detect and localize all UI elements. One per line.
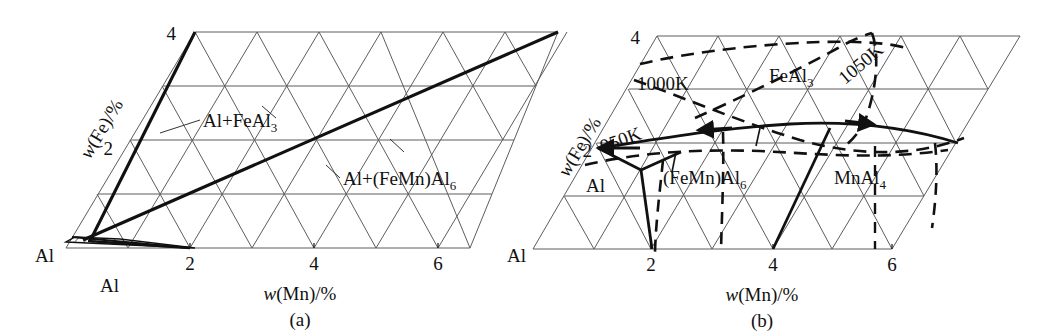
panel-b-corner-al: Al [507, 245, 526, 266]
panel-b-xlabel: w(Mn)/% [726, 284, 799, 306]
panel-b-xlabel-w: w [726, 284, 739, 305]
panel-b-iso-950-text: 950K [597, 122, 644, 156]
panel-b-iso-950-label: 950K [597, 122, 644, 156]
panel-b-xtick-4: 4 [768, 254, 778, 275]
panel-b-boundary-mnal4 [773, 128, 830, 249]
panel-b-iso-1000-label: 1000K [637, 73, 689, 94]
panel-b-label-al: Al [586, 175, 605, 196]
panel-b-xtick-6: 6 [887, 254, 897, 275]
panel-b-iso-1050-label: 1050K [834, 39, 887, 89]
panel-b-label-feal3-text: FeAl [769, 65, 807, 86]
figure-container: 4 2 2 4 6 Al Al w(Fe)/% w(Mn)/% (a) Al+F… [0, 0, 1063, 336]
panel-b-iso-1050-text: 1050K [834, 39, 887, 89]
panel-b-dashed-femnal6-left [655, 160, 663, 252]
panel-b-label-mnal4-sub: 4 [879, 177, 886, 192]
panel-b-xlabel-rest: (Mn)/% [738, 284, 798, 306]
panel-b-triple-point-stem [641, 170, 652, 249]
panel-b-caption: (b) [751, 310, 773, 332]
panel-b-label-mnal4-text: MnAl [834, 167, 879, 188]
panel-b-ytick-4: 4 [631, 27, 641, 48]
panel-b-label-femnal6-text: (FeMn)Al [663, 167, 740, 189]
panel-b-label-femnal6-sub: 6 [740, 177, 747, 192]
panel-b-xtick-2: 2 [646, 254, 656, 275]
panel-b-label-feal3-sub: 3 [807, 75, 814, 90]
panel-b-label-feal3: FeAl3 [769, 65, 814, 90]
panel-b-dashed-mnal4-right [932, 143, 936, 228]
panel-b-diagram: 4 2 2 4 6 Al w(Fe)/% w(Mn)/% (b) 950K 10… [0, 0, 1063, 336]
panel-b-label-femnal6: (FeMn)Al6 [663, 167, 747, 192]
